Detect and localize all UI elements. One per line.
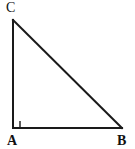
right-triangle-svg <box>0 0 135 149</box>
vertex-label-b: B <box>117 134 126 148</box>
geometry-figure: C A B <box>0 0 135 149</box>
vertex-label-a: A <box>7 134 17 148</box>
vertex-label-c: C <box>6 1 15 15</box>
